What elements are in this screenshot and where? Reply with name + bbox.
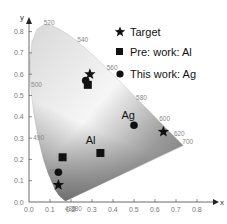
y-tick-label: 0.5 [14,92,24,99]
cie-chromaticity-chart: xy0.00.10.20.30.40.50.60.70.80.00.10.20.… [0,0,227,224]
x-tick-label: 0.8 [192,206,202,213]
wavelength-label: 580 [136,94,147,101]
y-tick-label: 0.7 [14,49,24,56]
y-tick-label: 0.2 [14,156,24,163]
x-axis-name: x [220,198,224,207]
legend-label: This work: Ag [130,68,196,80]
x-tick-label: 0.7 [171,206,181,213]
thiswork-ag-circle-icon [130,122,138,130]
wavelength-label: 380 [71,205,82,212]
y-axis-name: y [20,13,24,22]
square-icon [116,48,123,55]
legend-item-prework-al: Pre: work: Al [116,46,192,58]
wavelength-label: 500 [31,81,42,88]
wavelength-label: 540 [77,36,88,43]
wavelength-label: 600 [159,115,170,122]
series-annotation: Al [86,134,96,146]
legend-label: Pre: work: Al [130,46,192,58]
circle-icon [116,70,123,77]
legend-item-target: Target [115,26,161,38]
x-tick-label: 0.4 [108,206,118,213]
x-tick-label: 0.3 [87,206,97,213]
legend-label: Target [130,26,161,38]
wavelength-label: 490 [33,134,44,141]
x-tick-label: 0.0 [24,206,34,213]
y-tick-label: 0.1 [14,177,24,184]
legend-item-thiswork-ag: This work: Ag [116,68,196,80]
y-tick-label: 0.3 [14,135,24,142]
series-annotation: Ag [121,109,134,121]
y-axis-arrow-icon [26,17,32,24]
thiswork-ag-circle-icon [55,168,63,176]
prework-al-square-icon [59,153,67,161]
wavelength-label: 700 [182,138,193,145]
x-axis-arrow-icon [213,199,219,205]
y-tick-label: 0.0 [14,199,24,206]
x-tick-label: 0.1 [45,206,55,213]
x-tick-label: 0.5 [129,206,139,213]
wavelength-label: 560 [107,64,118,71]
prework-al-square-icon [96,149,104,157]
wavelength-label: 520 [44,19,55,26]
x-tick-label: 0.6 [150,206,160,213]
y-tick-label: 0.6 [14,71,24,78]
y-tick-label: 0.8 [14,28,24,35]
wavelength-label: 620 [174,130,185,137]
star-icon [115,27,125,37]
legend: Target Pre: work: Al This work: Ag [115,26,196,80]
thiswork-ag-circle-icon [82,77,90,85]
y-tick-label: 0.4 [14,113,24,120]
